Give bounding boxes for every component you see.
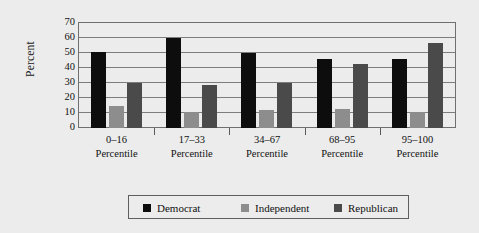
legend-label: Democrat	[157, 202, 200, 214]
y-tick-20: 20	[49, 92, 75, 103]
bar-group	[229, 23, 304, 128]
chart-legend: DemocratIndependentRepublican	[128, 195, 409, 219]
legend-swatch-icon	[143, 204, 151, 212]
y-tick-70: 70	[49, 17, 75, 28]
bar-democrat	[241, 53, 256, 128]
legend-item-independent[interactable]: Independent	[241, 200, 309, 215]
bar-democrat	[91, 52, 106, 129]
x-label-unit: Percentile	[372, 147, 462, 161]
legend-item-democrat[interactable]: Democrat	[143, 200, 200, 215]
bar-republican	[127, 83, 142, 128]
legend-swatch-icon	[241, 204, 249, 212]
y-tick-30: 30	[49, 77, 75, 88]
y-tick-50: 50	[49, 47, 75, 58]
legend-swatch-icon	[334, 204, 342, 212]
bar-republican	[202, 85, 217, 129]
y-tick-0: 0	[49, 122, 75, 133]
bar-group	[380, 23, 455, 128]
bar-group	[154, 23, 229, 128]
bar-republican	[277, 83, 292, 128]
y-tick-10: 10	[49, 107, 75, 118]
bar-republican	[353, 64, 368, 129]
bar-chart: Percent 010203040506070 0–16Percentile17…	[0, 0, 479, 233]
y-tick-40: 40	[49, 62, 75, 73]
legend-item-republican[interactable]: Republican	[334, 200, 398, 215]
bar-republican	[428, 43, 443, 129]
legend-label: Republican	[348, 202, 398, 214]
bar-independent	[335, 109, 350, 129]
bar-independent	[410, 112, 425, 129]
bar-group	[79, 23, 154, 128]
bar-independent	[259, 110, 274, 128]
x-label-5: 95–100Percentile	[372, 133, 462, 160]
bar-group	[305, 23, 380, 128]
bar-democrat	[392, 59, 407, 128]
y-tick-60: 60	[49, 32, 75, 43]
x-label-range: 95–100	[372, 133, 462, 147]
bar-democrat	[166, 38, 181, 128]
bar-independent	[184, 112, 199, 129]
legend-label: Independent	[255, 202, 309, 214]
bar-independent	[109, 106, 124, 129]
y-axis-label: Percent	[24, 9, 36, 109]
bar-series-layer	[79, 23, 455, 128]
bar-democrat	[317, 59, 332, 128]
